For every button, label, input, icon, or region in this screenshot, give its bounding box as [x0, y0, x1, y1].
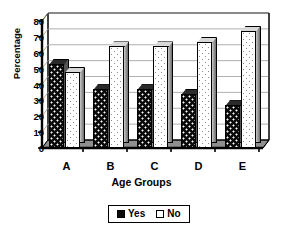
bar-front-face — [109, 46, 124, 148]
bar-front-face — [65, 72, 80, 148]
bar-front-face — [197, 42, 212, 148]
legend-label-no: No — [167, 209, 180, 219]
bar-front-face — [241, 31, 256, 148]
bar-A-yes[interactable] — [49, 64, 64, 148]
bar-C-no[interactable] — [153, 46, 168, 148]
legend-item-no[interactable]: No — [156, 209, 180, 219]
bar-front-face — [93, 89, 108, 148]
x-axis-title: Age Groups — [0, 176, 283, 188]
bar-D-yes[interactable] — [181, 94, 196, 148]
y-axis-title: Percentage — [11, 13, 22, 95]
bar-side-face — [80, 67, 85, 143]
bar-B-yes[interactable] — [93, 89, 108, 148]
bar-front-face — [225, 105, 240, 148]
bar-side-face — [124, 41, 129, 143]
x-axis-tick-labels: ABCDE — [22, 160, 277, 174]
bar-side-face — [168, 41, 173, 143]
bar-B-no[interactable] — [109, 46, 124, 148]
bar-D-no[interactable] — [197, 42, 212, 148]
bar-front-face — [153, 46, 168, 148]
x-tick-B: B — [99, 160, 123, 172]
legend-swatch-yes-icon — [117, 210, 125, 218]
bar-E-yes[interactable] — [225, 105, 240, 148]
bar-front-face — [49, 64, 64, 148]
plot-area: 80 70 60 50 40 30 20 10 0 — [22, 5, 277, 155]
legend-swatch-no-icon — [156, 210, 164, 218]
bar-front-face — [181, 94, 196, 148]
x-tick-E: E — [231, 160, 255, 172]
x-tick-D: D — [187, 160, 211, 172]
bar-E-no[interactable] — [241, 31, 256, 148]
bar-series-container — [22, 5, 277, 155]
bar-A-no[interactable] — [65, 72, 80, 148]
bar-front-face — [137, 89, 152, 148]
chart-legend: Yes No — [108, 205, 190, 223]
bar-C-yes[interactable] — [137, 89, 152, 148]
bar-side-face — [212, 37, 217, 143]
bar-side-face — [256, 26, 261, 143]
x-tick-C: C — [143, 160, 167, 172]
chart-screenshot: { "chart_data": { "type": "bar", "title"… — [0, 0, 283, 230]
legend-item-yes[interactable]: Yes — [117, 209, 145, 219]
legend-label-yes: Yes — [128, 209, 145, 219]
x-tick-A: A — [55, 160, 79, 172]
